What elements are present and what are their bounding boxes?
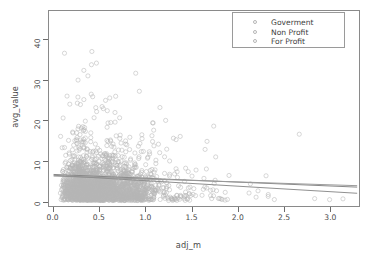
x-tick-mark bbox=[330, 207, 331, 212]
y-tick-label: 40 bbox=[34, 38, 43, 48]
x-tick-label: 1.0 bbox=[130, 213, 160, 222]
x-tick-mark bbox=[53, 207, 54, 212]
data-points-layer bbox=[58, 49, 345, 202]
y-tick-mark bbox=[43, 39, 48, 40]
y-tick-label: 20 bbox=[34, 120, 43, 130]
legend-marker-icon bbox=[253, 39, 257, 43]
y-axis-title: avg_value bbox=[8, 10, 20, 207]
y-tick-mark bbox=[43, 202, 48, 203]
x-tick-mark bbox=[145, 207, 146, 212]
x-tick-label: 0.0 bbox=[38, 213, 68, 222]
legend: GovermentNon ProfitFor Profit bbox=[232, 12, 345, 48]
legend-item: For Profit bbox=[233, 36, 344, 47]
legend-label: For Profit bbox=[271, 36, 305, 47]
scatter-plot-figure: avg_value 0102030400.00.51.01.52.02.53.0… bbox=[0, 0, 377, 263]
y-axis-title-text: avg_value bbox=[10, 9, 20, 206]
y-tick-label: 0 bbox=[34, 202, 43, 207]
x-tick-mark bbox=[284, 207, 285, 212]
x-axis-title: adj_m bbox=[0, 240, 377, 250]
x-tick-label: 0.5 bbox=[84, 213, 114, 222]
x-tick-mark bbox=[192, 207, 193, 212]
x-tick-label: 1.5 bbox=[177, 213, 207, 222]
legend-marker-icon bbox=[253, 20, 257, 24]
x-tick-mark bbox=[238, 207, 239, 212]
x-tick-label: 3.0 bbox=[315, 213, 345, 222]
x-tick-label: 2.0 bbox=[223, 213, 253, 222]
y-tick-label: 10 bbox=[34, 161, 43, 171]
y-tick-label: 30 bbox=[34, 79, 43, 89]
y-tick-mark bbox=[43, 161, 48, 162]
y-tick-mark bbox=[43, 80, 48, 81]
legend-marker-icon bbox=[253, 30, 257, 34]
x-tick-mark bbox=[99, 207, 100, 212]
x-tick-label: 2.5 bbox=[269, 213, 299, 222]
y-tick-mark bbox=[43, 120, 48, 121]
